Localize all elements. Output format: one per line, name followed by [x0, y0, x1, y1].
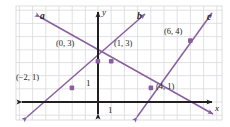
point-4-1	[149, 86, 154, 91]
y-axis-tick-label: 1	[86, 79, 91, 88]
point-6-4	[188, 38, 193, 43]
y-axis-label: y	[102, 8, 106, 17]
point-1-3	[109, 59, 114, 64]
point-neg2-1	[70, 86, 75, 91]
line-label-c: c	[207, 13, 211, 23]
point-label-0-3: (0, 3)	[56, 39, 74, 48]
line-label-b: b	[137, 12, 142, 22]
x-axis-tick-label: 1	[108, 106, 113, 115]
point-label-1-3: (1, 3)	[114, 39, 132, 48]
coordinate-graph-figure: a b c (0, 3) (1, 3) (−2, 1) (4, 1) (6, 4…	[0, 0, 230, 127]
point-label-4-1: (4, 1)	[156, 82, 174, 91]
line-label-a: a	[40, 12, 45, 22]
graph-canvas	[0, 0, 230, 127]
point-label-neg2-1: (−2, 1)	[16, 73, 39, 82]
point-0-3	[96, 59, 101, 64]
point-label-6-4: (6, 4)	[164, 27, 182, 36]
x-axis-label: x	[215, 104, 219, 113]
